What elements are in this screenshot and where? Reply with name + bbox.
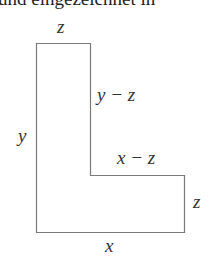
label-left-y: y [18,126,26,146]
l-shape-outline [37,44,185,233]
label-bottom-x: x [105,236,113,256]
label-top-z: z [57,17,64,37]
label-right-z: z [193,192,200,212]
label-inner-vertical: y − z [97,85,135,105]
label-inner-horizontal: x − z [117,148,155,168]
l-shape-figure [0,0,211,269]
